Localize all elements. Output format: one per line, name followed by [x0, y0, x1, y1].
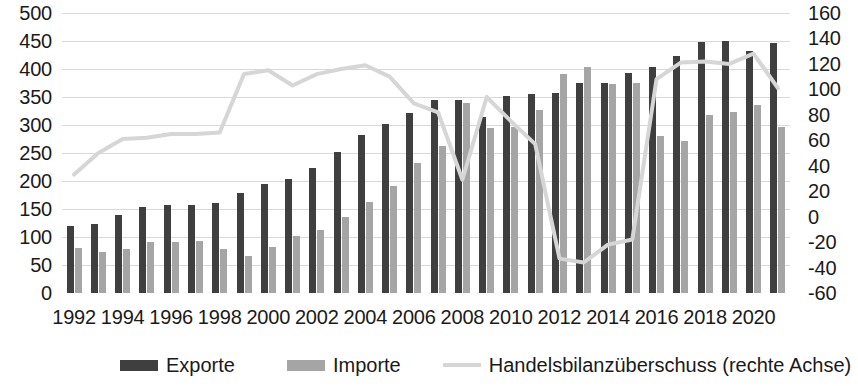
y-axis-left-tick-label: 300	[0, 115, 52, 135]
bar-import	[706, 115, 713, 293]
y-axis-right-tick-label: 140	[808, 28, 841, 48]
y-axis-right-tick-label: 20	[808, 181, 830, 201]
bar-import	[730, 112, 737, 293]
gridline	[62, 97, 790, 98]
y-axis-right-tick-label: -40	[808, 258, 836, 278]
y-axis-right-tick-label: 60	[808, 130, 830, 150]
x-axis-tick-label: 2020	[724, 307, 784, 327]
y-axis-left-tick-label: 50	[0, 255, 52, 275]
bar-import	[147, 242, 154, 293]
bar-export	[601, 83, 608, 293]
bar-export	[503, 96, 510, 293]
bar-export	[528, 94, 535, 293]
legend-label: Exporte	[166, 355, 235, 375]
bar-export	[770, 43, 777, 293]
bar-export	[358, 135, 365, 293]
bar-export	[431, 100, 438, 293]
bar-export	[164, 205, 171, 293]
bar-import	[463, 103, 470, 293]
bar-export	[576, 83, 583, 293]
y-axis-right-tick-label: 160	[808, 3, 841, 23]
bar-export	[261, 184, 268, 293]
bar-import	[390, 186, 397, 293]
gridline	[62, 69, 790, 70]
legend-item[interactable]: Handelsbilanzüberschuss (rechte Achse)	[443, 355, 851, 375]
bar-export	[212, 203, 219, 293]
bar-import	[245, 256, 252, 294]
bar-import	[536, 110, 543, 293]
bar-export	[746, 51, 753, 294]
y-axis-right-tick-label: -60	[808, 283, 836, 303]
bar-import	[778, 127, 785, 293]
bar-export	[382, 124, 389, 293]
bar-export	[91, 224, 98, 293]
bar-import	[681, 141, 688, 293]
y-axis-right-tick-label: 100	[808, 79, 841, 99]
bar-export	[285, 179, 292, 293]
bar-import	[196, 241, 203, 293]
legend-label: Handelsbilanzüberschuss (rechte Achse)	[489, 355, 851, 375]
bar-import	[317, 230, 324, 293]
bar-export	[67, 226, 74, 293]
chart-legend: ExporteImporteHandelsbilanzüberschuss (r…	[120, 352, 820, 378]
y-axis-left-tick-label: 150	[0, 199, 52, 219]
bar-import	[269, 247, 276, 294]
y-axis-right-tick-label: -20	[808, 232, 836, 252]
y-axis-left-tick-label: 500	[0, 3, 52, 23]
bar-import	[99, 252, 106, 293]
bar-import	[560, 74, 567, 293]
gridline	[62, 125, 790, 126]
bar-import	[754, 105, 761, 293]
legend-item[interactable]: Exporte	[120, 355, 235, 375]
y-axis-left-tick-label: 200	[0, 171, 52, 191]
bar-import	[511, 127, 518, 293]
bar-import	[439, 146, 446, 293]
plot-area	[62, 13, 790, 293]
bar-export	[309, 168, 316, 293]
y-axis-right-tick-label: 40	[808, 156, 830, 176]
bar-import	[657, 136, 664, 293]
bar-import	[633, 83, 640, 293]
bar-export	[625, 73, 632, 293]
legend-swatch-export	[120, 360, 158, 371]
bar-export	[698, 42, 705, 293]
y-axis-right-tick-label: 80	[808, 105, 830, 125]
chart-container: 500450400350300250200150100500 160140120…	[0, 0, 858, 386]
y-axis-left-tick-label: 450	[0, 31, 52, 51]
bar-import	[487, 128, 494, 293]
bar-export	[188, 205, 195, 294]
bar-export	[479, 117, 486, 293]
bar-export	[406, 113, 413, 293]
y-axis-right-tick-label: 0	[808, 207, 819, 227]
y-axis-left-tick-label: 250	[0, 143, 52, 163]
legend-label: Importe	[333, 355, 401, 375]
bar-import	[172, 242, 179, 294]
bar-export	[649, 67, 656, 293]
legend-swatch-line	[443, 363, 481, 367]
bar-import	[123, 249, 130, 293]
bar-import	[220, 249, 227, 293]
bar-import	[293, 236, 300, 293]
legend-item[interactable]: Importe	[287, 355, 401, 375]
bar-import	[75, 248, 82, 293]
gridline	[62, 41, 790, 42]
y-axis-left-tick-label: 400	[0, 59, 52, 79]
bar-import	[584, 67, 591, 293]
bar-export	[334, 152, 341, 293]
bar-import	[366, 202, 373, 293]
y-axis-left-tick-label: 100	[0, 227, 52, 247]
bar-export	[139, 207, 146, 293]
y-axis-left-tick-label: 0	[0, 283, 52, 303]
bar-import	[414, 163, 421, 294]
bar-export	[673, 56, 680, 293]
bar-export	[115, 215, 122, 293]
bar-export	[722, 41, 729, 293]
bar-import	[342, 217, 349, 293]
legend-swatch-import	[287, 360, 325, 371]
bar-export	[552, 93, 559, 294]
y-axis-left-tick-label: 350	[0, 87, 52, 107]
gridline	[62, 13, 790, 14]
bar-export	[455, 100, 462, 293]
y-axis-right-tick-label: 120	[808, 54, 841, 74]
bar-export	[237, 193, 244, 293]
